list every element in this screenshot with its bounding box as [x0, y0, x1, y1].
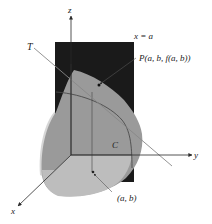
surface-diagram: z y x x = a T P(a, b, f(a, b)) C (a, b): [0, 0, 212, 224]
curve-c-label: C: [112, 140, 119, 150]
y-axis-label: y: [193, 150, 198, 160]
base-point-dot: [92, 171, 95, 174]
base-point-label: (a, b): [117, 193, 137, 203]
z-axis-label: z: [67, 5, 72, 15]
tangent-label: T: [27, 41, 34, 52]
point-p-label: P(a, b, f(a, b)): [138, 53, 191, 63]
x-axis-label: x: [10, 206, 15, 216]
plane-label: x = a: [133, 31, 154, 41]
